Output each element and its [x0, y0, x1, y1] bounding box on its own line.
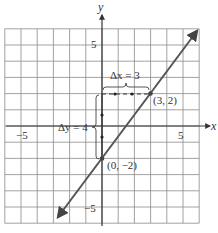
run-dot	[113, 92, 116, 95]
run-dot	[130, 92, 133, 95]
point-0-neg2	[100, 156, 105, 161]
rise-brace	[92, 95, 99, 159]
tick-x-5: 5	[178, 129, 184, 141]
x-axis-label: x	[210, 119, 217, 133]
tick-x-neg5: −5	[16, 129, 28, 141]
point-3-2-label: (3, 2)	[153, 94, 177, 107]
y-axis-label: y	[97, 0, 104, 14]
rise-dot	[100, 113, 103, 116]
run-brace	[103, 83, 149, 90]
delta-x-label: Δx = 3	[110, 69, 140, 81]
point-0-neg2-label: (0, −2)	[107, 159, 137, 172]
tick-y-5: 5	[91, 38, 97, 50]
tick-y-neg5: −5	[84, 202, 96, 214]
rise-dot	[100, 135, 103, 138]
slope-chart: x y −5 5 5 −5 Δx = 3 Δy = 4 (0, −2) (3, …	[0, 0, 218, 233]
delta-y-label: Δy = 4	[58, 121, 88, 133]
